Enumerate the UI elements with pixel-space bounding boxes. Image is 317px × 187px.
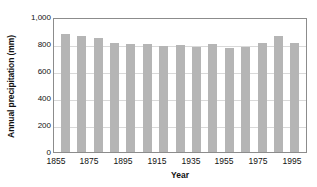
bar-group <box>54 19 306 152</box>
x-axis-title: Year <box>53 170 307 180</box>
bar <box>159 46 168 152</box>
bar <box>258 43 267 152</box>
bar-slot <box>270 19 286 152</box>
bar-slot <box>205 19 221 152</box>
y-tick-label: 400 <box>11 94 51 104</box>
x-tick-label: 1955 <box>207 156 241 167</box>
x-tick-label: 1935 <box>174 156 208 167</box>
bar-slot <box>57 19 73 152</box>
bar <box>208 44 217 152</box>
bar <box>225 48 234 152</box>
y-tick-label: 1,000 <box>11 13 51 23</box>
bar-slot <box>221 19 237 152</box>
x-tick-label: 1855 <box>39 156 73 167</box>
bar <box>241 47 250 152</box>
bar <box>176 45 185 152</box>
x-tick-label: 1975 <box>241 156 275 167</box>
bar-slot <box>139 19 155 152</box>
bar <box>274 36 283 152</box>
y-tick-label: 600 <box>11 67 51 77</box>
bar <box>110 43 119 152</box>
bar-slot <box>172 19 188 152</box>
bar-slot <box>237 19 253 152</box>
bar <box>143 44 152 152</box>
bar-slot <box>188 19 204 152</box>
bar <box>126 44 135 152</box>
bar-slot <box>123 19 139 152</box>
plot-area <box>53 18 307 153</box>
y-tick-label: 800 <box>11 40 51 50</box>
bar <box>77 36 86 152</box>
bar <box>290 43 299 152</box>
bar <box>192 47 201 152</box>
precipitation-bar-chart: Annual precipitation (mm) 1,000 800 600 … <box>0 0 317 187</box>
bar-slot <box>287 19 303 152</box>
plot-inner <box>54 19 306 152</box>
bar <box>61 34 70 152</box>
bar-slot <box>73 19 89 152</box>
x-tick-label: 1895 <box>106 156 140 167</box>
y-axis-title: Annual precipitation (mm) <box>4 10 18 163</box>
bar-slot <box>106 19 122 152</box>
x-tick-label: 1995 <box>275 156 309 167</box>
y-tick-label: 200 <box>11 121 51 131</box>
bar-slot <box>155 19 171 152</box>
bar-slot <box>90 19 106 152</box>
x-tick-label: 1875 <box>72 156 106 167</box>
bar <box>94 38 103 152</box>
x-tick-label: 1915 <box>140 156 174 167</box>
bar-slot <box>254 19 270 152</box>
